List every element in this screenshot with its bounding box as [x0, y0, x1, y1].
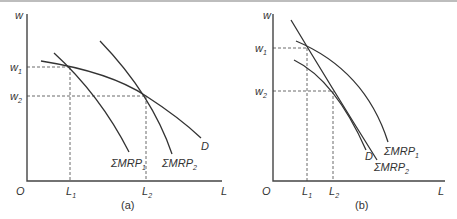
panel-a-sum-mrp2-curve	[100, 41, 172, 154]
panel-a-caption: (a)	[121, 199, 134, 211]
panel-a-sum-mrp1-curve	[54, 53, 129, 152]
panel-b-x-axis-label: L	[438, 185, 444, 197]
panel-a-demand-label: D	[201, 140, 209, 152]
panel-a-origin-label: O	[16, 185, 25, 197]
panel-b-w1-label: w1	[255, 42, 267, 56]
panel-b: w O L w1 w2 L1 L2 D ΣMRP1 ΣMRP2 (b)	[255, 9, 445, 211]
panel-b-origin-label: O	[262, 185, 271, 197]
panel-b-y-axis-label: w	[263, 9, 272, 21]
panel-b-sum-mrp2-label: ΣMRP2	[373, 161, 409, 175]
panel-b-demand-label: D	[365, 150, 373, 162]
labor-demand-diagram: w O L w1 w2 L1 L2 D ΣMRP1 ΣMRP2 (a) w O …	[0, 0, 457, 219]
panel-a-demand-curve	[41, 61, 201, 138]
panel-b-axes	[273, 14, 445, 181]
panel-b-sum-mrp1-label: ΣMRP1	[383, 145, 419, 159]
panel-b-l1-label: L1	[302, 185, 312, 199]
panel-b-sum-mrp2-curve	[291, 20, 377, 160]
panel-b-demand-curve	[294, 60, 366, 150]
panel-a-w2-label: w2	[10, 90, 22, 104]
panel-a-l2-label: L2	[142, 185, 152, 199]
panel-a-sum-mrp1-label: ΣMRP1	[110, 157, 146, 171]
panel-b-sum-mrp1-curve	[296, 41, 388, 142]
panel-a-x-axis-label: L	[221, 185, 227, 197]
panel-a: w O L w1 w2 L1 L2 D ΣMRP1 ΣMRP2 (a)	[10, 9, 227, 211]
panel-b-l2-label: L2	[329, 185, 339, 199]
panel-a-sum-mrp2-label: ΣMRP2	[161, 157, 197, 171]
panel-a-y-axis-label: w	[15, 9, 24, 21]
panel-b-caption: (b)	[355, 199, 368, 211]
panel-b-w2-label: w2	[255, 85, 267, 99]
panel-a-w1-label: w1	[10, 61, 22, 75]
panel-a-axes	[27, 14, 222, 181]
panel-a-l1-label: L1	[66, 185, 76, 199]
